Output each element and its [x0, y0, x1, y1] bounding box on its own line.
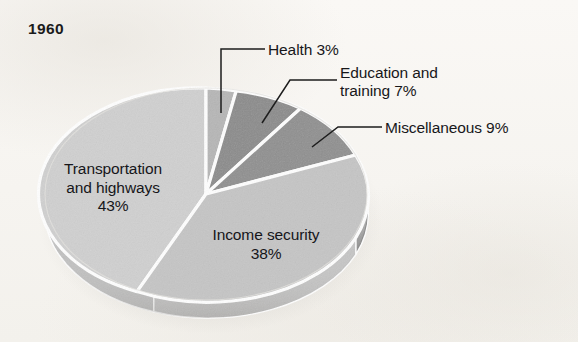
chart-title: 1960 [28, 20, 64, 38]
label-transportation: Transportation and highways 43% [33, 160, 193, 216]
label-income-security: Income security 38% [186, 226, 346, 263]
label-education: Education and training 7% [340, 64, 438, 100]
label-miscellaneous: Miscellaneous 9% [385, 119, 508, 137]
pie-chart-figure: 1960 Health 3% Education and training 7%… [0, 0, 578, 342]
label-health: Health 3% [268, 41, 339, 59]
